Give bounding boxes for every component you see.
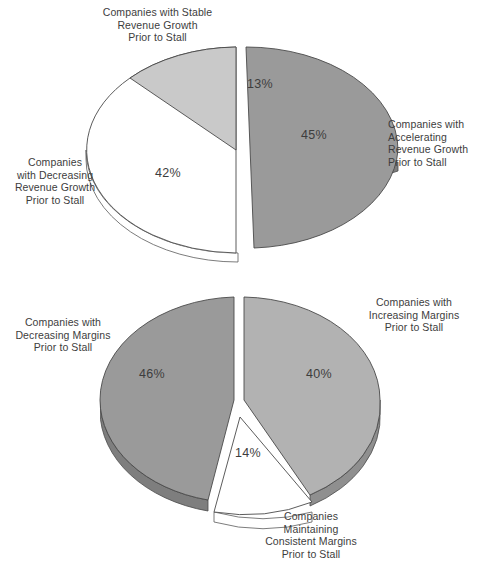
value-stable-revenue-growth: 13%: [238, 77, 282, 91]
value-consistent-margins: 14%: [226, 446, 270, 460]
bottom-pie-chart: [100, 297, 380, 529]
value-increasing-margins: 40%: [297, 367, 341, 381]
pie-chart-figure: Companies with Stable Revenue Growth Pri…: [0, 0, 478, 574]
callout-increasing-margins: Companies with Increasing Margins Prior …: [352, 296, 476, 334]
callout-stable-revenue-growth: Companies with Stable Revenue Growth Pri…: [70, 6, 245, 44]
callout-accelerating-revenue-growth: Companies with Accelerating Revenue Grow…: [388, 118, 478, 168]
value-decreasing-revenue-growth: 42%: [146, 166, 190, 180]
callout-decreasing-revenue-growth: Companies with Decreasing Revenue Growth…: [2, 156, 108, 206]
callout-decreasing-margins: Companies with Decreasing Margins Prior …: [2, 316, 124, 354]
value-decreasing-margins: 46%: [130, 367, 174, 381]
value-accelerating-revenue-growth: 45%: [292, 128, 336, 142]
callout-consistent-margins: Companies Maintaining Consistent Margins…: [248, 510, 374, 560]
